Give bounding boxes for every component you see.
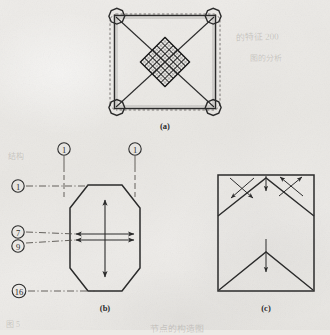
callout-left-7-label: 7	[16, 228, 20, 238]
callout-top-left-label: 1	[62, 145, 66, 155]
panel-c-outline	[218, 175, 314, 291]
panel-b-left-balloons: 1 7 9 16	[12, 180, 26, 298]
callout-left-7: 7	[12, 226, 24, 238]
corner-node-bottom-left	[109, 100, 125, 116]
callout-left-16-label: 16	[15, 287, 24, 297]
callout-top-right-label: 1	[133, 145, 137, 155]
panel-c-rectangular-section: (c)	[218, 175, 314, 313]
panel-b-caption: (b)	[100, 303, 111, 313]
panel-b-top-balloons: 1 1	[58, 143, 141, 155]
callout-left-16: 16	[12, 284, 26, 298]
panel-a-caption: (a)	[160, 121, 170, 131]
callout-top-right: 1	[129, 143, 141, 155]
panel-a-assembly-plan: (a)	[109, 8, 221, 131]
callout-left-1: 1	[12, 180, 24, 192]
callout-left-9: 9	[12, 240, 24, 252]
panel-b-top-leaders	[64, 156, 135, 197]
panel-a-center-mesh	[140, 37, 189, 86]
corner-node-top-right	[205, 8, 221, 24]
panel-c-right-cross-arrows	[279, 177, 303, 196]
corner-node-top-left	[109, 8, 125, 24]
panel-c-left-cross-arrows	[230, 178, 254, 198]
panel-b-octagon-section: 1 1 1 7	[12, 143, 141, 313]
panel-b-left-leaders	[26, 186, 95, 291]
callout-left-1-label: 1	[16, 182, 20, 192]
panel-c-caption: (c)	[261, 303, 271, 313]
callout-top-left: 1	[58, 143, 70, 155]
callout-left-9-label: 9	[16, 242, 20, 252]
corner-node-bottom-right	[205, 100, 221, 116]
